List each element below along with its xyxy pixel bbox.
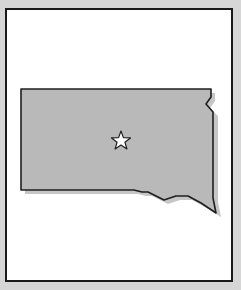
state-map xyxy=(0,0,241,290)
state-shape xyxy=(21,89,216,213)
